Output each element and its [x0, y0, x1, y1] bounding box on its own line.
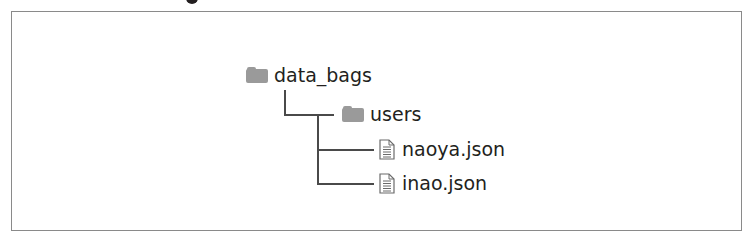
connector-to-naoya [317, 149, 374, 151]
connector-root-to-users [284, 114, 334, 116]
node-label: data_bags [274, 64, 372, 86]
tree-node-users: users [342, 103, 421, 125]
folder-icon [342, 106, 364, 122]
connector-to-inao [317, 183, 374, 185]
node-label: inao.json [402, 172, 487, 194]
cropped-heading-fragment [186, 0, 198, 4]
diagram-frame: data_bags users naoya.json [11, 11, 742, 231]
node-label: naoya.json [402, 138, 505, 160]
tree-node-data-bags: data_bags [246, 64, 372, 86]
file-icon [379, 139, 395, 160]
tree-node-inao-json: inao.json [379, 172, 487, 194]
folder-icon [246, 67, 268, 83]
node-label: users [370, 103, 421, 125]
tree-node-naoya-json: naoya.json [379, 138, 505, 160]
connector-root-vertical [284, 90, 286, 116]
file-icon [379, 173, 395, 194]
